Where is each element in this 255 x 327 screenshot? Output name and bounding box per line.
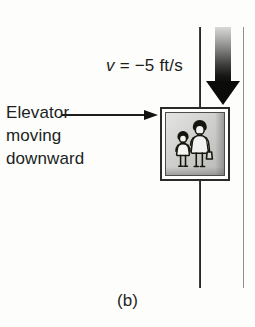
elevator-car <box>160 107 230 181</box>
velocity-equals: = <box>115 56 135 75</box>
shaft-wall-right <box>243 27 244 288</box>
elevator-annotation-line-3: downward <box>6 147 106 170</box>
down-arrow-icon <box>206 27 240 105</box>
velocity-symbol: v <box>106 56 115 75</box>
down-arrow-head <box>206 81 240 105</box>
elevator-physics-figure: v = −5 ft/s <box>0 0 255 327</box>
velocity-annotation: v = −5 ft/s <box>106 56 183 76</box>
elevator-annotation: Elevator moving downward <box>6 101 106 170</box>
car-interior-shading-bottom <box>166 167 224 175</box>
elevator-outer-frame <box>160 107 230 181</box>
elevator-annotation-line-1: Elevator <box>6 101 106 124</box>
adult-figure <box>191 121 213 167</box>
elevator-annotation-line-2: moving <box>6 124 106 147</box>
leader-arrowhead <box>144 110 158 120</box>
child-figure <box>176 132 190 167</box>
car-interior-shading-right <box>215 113 224 175</box>
velocity-value: −5 ft/s <box>135 56 183 75</box>
elevator-interior <box>165 112 225 176</box>
figure-caption: (b) <box>0 291 255 311</box>
down-arrow-stem <box>215 27 231 83</box>
